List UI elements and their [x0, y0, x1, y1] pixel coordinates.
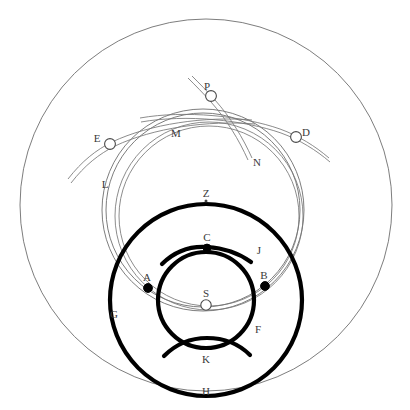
geometry-diagram: P E D M N L Z C J A B S G F K H	[0, 0, 410, 410]
label-l: L	[102, 178, 109, 190]
node-e[interactable]	[105, 139, 116, 150]
label-c: C	[203, 231, 210, 243]
label-b: B	[260, 269, 267, 281]
node-s[interactable]	[201, 300, 211, 310]
label-d: D	[302, 126, 310, 138]
node-z-center-dot	[205, 200, 208, 203]
label-e: E	[94, 132, 101, 144]
label-s: S	[203, 287, 209, 299]
node-b[interactable]	[261, 282, 270, 291]
label-k: K	[202, 353, 210, 365]
label-p: P	[204, 80, 210, 92]
diagram-canvas: P E D M N L Z C J A B S G F K H	[0, 0, 410, 410]
label-f: F	[255, 323, 261, 335]
node-c[interactable]	[203, 244, 211, 252]
label-g: G	[110, 308, 118, 320]
label-n: N	[253, 156, 261, 168]
label-h: H	[202, 385, 210, 397]
label-j: J	[257, 244, 262, 256]
node-d[interactable]	[291, 132, 302, 143]
node-a[interactable]	[144, 284, 153, 293]
label-z: Z	[203, 187, 210, 199]
arc-e-oblique-band	[68, 119, 255, 183]
label-m: M	[171, 127, 181, 139]
label-a: A	[143, 271, 151, 283]
node-p[interactable]	[206, 91, 217, 102]
circle-l-band-inner	[106, 113, 300, 307]
arc-n-oblique-band	[188, 76, 252, 160]
